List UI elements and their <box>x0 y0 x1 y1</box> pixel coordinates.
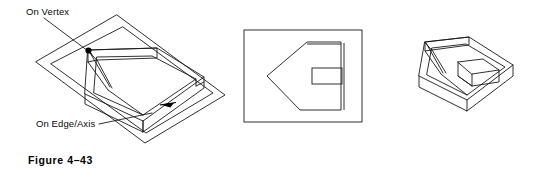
tray-top-rim-outer <box>85 48 204 121</box>
figure-container: On Vertex On Edge/Axis Figure 4–43 <box>0 0 539 175</box>
iso-boss-top-face <box>458 59 499 74</box>
iso-boss-left-face <box>458 62 472 86</box>
view-plan <box>244 30 362 122</box>
tray-slanted-inner-face-2 <box>97 60 112 88</box>
iso-boss-inner-edge <box>458 76 472 86</box>
tray-rear-wall-top <box>88 48 157 60</box>
figure-caption: Figure 4–43 <box>28 154 93 166</box>
figure-drawing-canvas <box>0 0 539 175</box>
iso-rear-wall-slant-2 <box>432 50 446 73</box>
iso-right-outer-wall <box>467 65 513 111</box>
iso-cavity-top <box>427 44 505 95</box>
iso-left-outer-wall <box>419 76 467 111</box>
view-isometric <box>419 37 513 111</box>
on-vertex-leader-line <box>44 18 92 54</box>
on-vertex-marker-icon <box>85 47 91 53</box>
plan-inner-rectangle <box>312 68 342 84</box>
tray-floor-line-left <box>108 90 143 115</box>
callout-label-on-edge-axis: On Edge/Axis <box>36 118 95 129</box>
iso-floor-line <box>441 74 467 95</box>
callout-label-on-vertex: On Vertex <box>26 6 69 17</box>
tray-front-right-outer-wall <box>143 77 204 132</box>
plan-profile-outline <box>267 42 341 110</box>
